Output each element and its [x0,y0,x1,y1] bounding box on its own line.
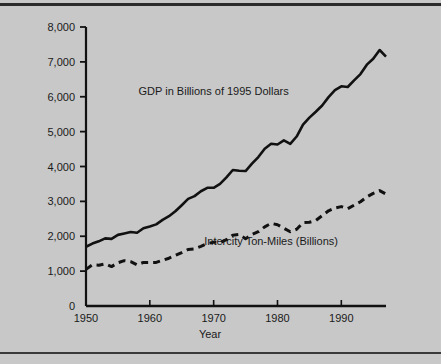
y-axis-tick-label: 7,000 [47,56,75,68]
line-chart: 01,0002,0003,0004,0005,0006,0007,0008,00… [0,0,441,364]
x-axis-tick-label: 1950 [74,312,98,324]
x-axis-title: Year [199,328,222,340]
x-axis: 19501960197019801990 Year [74,300,386,340]
tonmiles-series-label: Intercity Ton-Miles (Billions) [204,235,338,247]
y-axis-tick-label: 6,000 [47,91,75,103]
y-axis-tick-label: 3,000 [47,195,75,207]
x-axis-tick-label: 1990 [329,312,353,324]
chart-figure: 01,0002,0003,0004,0005,0006,0007,0008,00… [0,0,441,364]
y-axis-tick-label: 2,000 [47,230,75,242]
y-axis-tick-labels: 01,0002,0003,0004,0005,0006,0007,0008,00… [47,21,75,312]
x-axis-tick-label: 1980 [265,312,289,324]
y-axis: 01,0002,0003,0004,0005,0006,0007,0008,00… [47,21,86,312]
y-axis-tick-label: 0 [69,300,75,312]
x-axis-tick-label: 1960 [138,312,162,324]
x-axis-tick-labels: 19501960197019801990 [74,312,354,324]
gdp-series-line [86,50,386,247]
tonmiles-series-line [86,191,386,270]
y-axis-tick-label: 5,000 [47,126,75,138]
y-axis-tick-label: 4,000 [47,161,75,173]
gdp-series-label: GDP in Billions of 1995 Dollars [139,85,290,97]
x-axis-tick-label: 1970 [201,312,225,324]
y-axis-tick-label: 8,000 [47,21,75,33]
y-axis-tick-label: 1,000 [47,265,75,277]
